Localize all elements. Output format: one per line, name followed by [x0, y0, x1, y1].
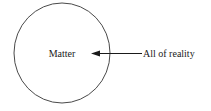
diagram-svg: Matter All of reality: [0, 0, 211, 111]
matter-label: Matter: [49, 48, 76, 59]
all-of-reality-label: All of reality: [143, 48, 195, 59]
diagram-canvas: Matter All of reality: [0, 0, 211, 111]
callout-arrow-head-icon: [91, 51, 100, 57]
